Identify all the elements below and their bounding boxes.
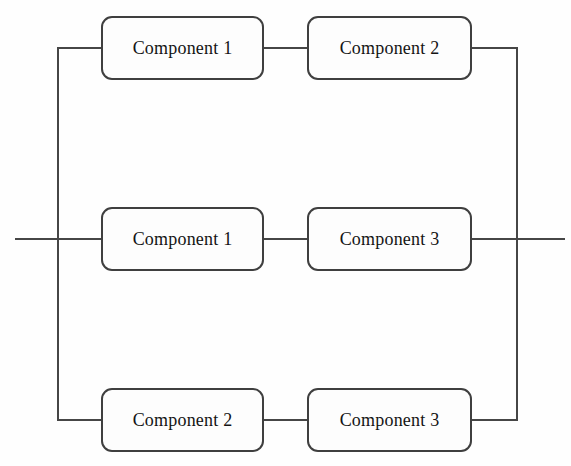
left-bus-line	[57, 47, 59, 421]
output-wire	[471, 238, 565, 240]
branch1-left-wire	[57, 47, 102, 49]
branch3-first-component-box: Component 2	[101, 388, 264, 452]
branch1-first-component-box: Component 1	[101, 16, 264, 80]
branch3-second-component-box: Component 3	[307, 388, 472, 452]
branch2-second-component-box: Component 3	[307, 207, 472, 271]
branch1-series-wire	[263, 47, 308, 49]
branch1-second-component-box: Component 2	[307, 16, 472, 80]
branch3-right-wire	[471, 419, 517, 421]
right-bus-line	[516, 47, 518, 421]
input-wire	[15, 238, 102, 240]
branch3-left-wire	[57, 419, 102, 421]
branch1-right-wire	[471, 47, 517, 49]
branch2-series-wire	[263, 238, 308, 240]
branch3-series-wire	[263, 419, 308, 421]
reliability-block-diagram: Component 1 Component 2 Component 1 Comp…	[0, 0, 571, 466]
branch2-first-component-box: Component 1	[101, 207, 264, 271]
